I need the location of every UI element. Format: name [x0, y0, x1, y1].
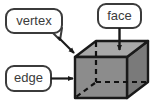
diagram-canvas: vertex face edge [0, 0, 161, 108]
callout-edge[interactable]: edge [6, 66, 73, 91]
vertex-pointer-arrow [58, 37, 74, 53]
face-callout-label: face [107, 8, 132, 23]
vertex-callout-label: vertex [16, 13, 52, 28]
edge-callout-label: edge [14, 70, 43, 85]
cube-parts-diagram: vertex face edge [0, 0, 161, 108]
cube-solid [75, 41, 148, 98]
callout-vertex[interactable]: vertex [6, 9, 74, 53]
cube-front-face [75, 57, 127, 98]
